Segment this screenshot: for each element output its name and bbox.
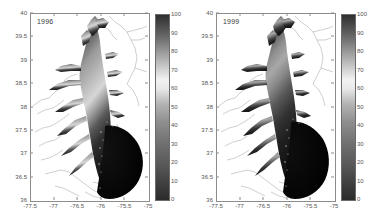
colorbar-gradient bbox=[342, 15, 355, 200]
y-tick-label: 39.5 bbox=[201, 33, 216, 39]
map-panel-1999: 1999 bbox=[186, 0, 372, 223]
map-artwork-1996 bbox=[31, 14, 149, 201]
map-panel-1996: 1996 bbox=[0, 0, 186, 223]
colorbar-1996 bbox=[155, 14, 170, 201]
plot-axes-1996: 1996 bbox=[30, 13, 150, 202]
figure-two-panel-maps: 1996 bbox=[0, 0, 373, 223]
y-tick-label: 36 bbox=[20, 197, 30, 203]
y-tick-label: 39 bbox=[206, 57, 216, 63]
plot-axes-1999: 1999 bbox=[216, 13, 336, 202]
map-artwork-1999 bbox=[217, 14, 335, 201]
y-tick-label: 40 bbox=[206, 10, 216, 16]
y-tick-label: 38.5 bbox=[15, 80, 30, 86]
y-tick-label: 37 bbox=[20, 150, 30, 156]
y-tick-label: 37 bbox=[206, 150, 216, 156]
y-tick-label: 39.5 bbox=[15, 33, 30, 39]
y-tick-label: 38 bbox=[20, 104, 30, 110]
y-tick-label: 37.5 bbox=[15, 127, 30, 133]
panel-year-label-1996: 1996 bbox=[37, 18, 53, 25]
y-tick-label: 39 bbox=[20, 57, 30, 63]
y-tick-label: 40 bbox=[20, 10, 30, 16]
colorbar-gradient bbox=[156, 15, 169, 200]
y-tick-label: 38 bbox=[206, 104, 216, 110]
y-tick-label: 38.5 bbox=[201, 80, 216, 86]
panel-year-label-1999: 1999 bbox=[223, 18, 239, 25]
y-tick-label: 36.5 bbox=[201, 174, 216, 180]
colorbar-1999 bbox=[341, 14, 356, 201]
y-tick-label: 36.5 bbox=[15, 174, 30, 180]
y-tick-label: 37.5 bbox=[201, 127, 216, 133]
y-tick-label: 36 bbox=[206, 197, 216, 203]
